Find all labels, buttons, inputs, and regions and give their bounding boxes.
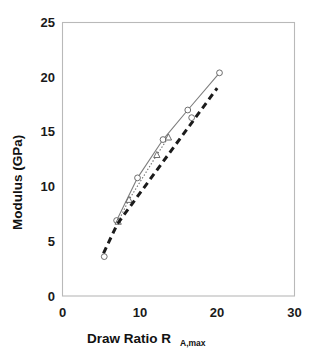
data-point-marker bbox=[135, 175, 141, 181]
x-axis-title-subscript: A,max bbox=[180, 338, 206, 348]
data-point-marker bbox=[217, 70, 223, 76]
xtick-label-0: 0 bbox=[59, 305, 66, 320]
chart-figure: 25 20 15 10 5 0 0 10 20 30 Modulus (GPa)… bbox=[0, 0, 319, 359]
ytick-label-0: 0 bbox=[48, 289, 55, 304]
x-axis-title: Draw Ratio R bbox=[87, 331, 171, 346]
xtick-label-30: 30 bbox=[287, 305, 301, 320]
ytick-label-25: 25 bbox=[41, 15, 55, 30]
ytick-label-10: 10 bbox=[41, 179, 55, 194]
data-point-marker bbox=[185, 107, 191, 113]
xtick-label-20: 20 bbox=[210, 305, 224, 320]
ytick-label-5: 5 bbox=[48, 234, 55, 249]
ytick-label-20: 20 bbox=[41, 70, 55, 85]
xtick-label-10: 10 bbox=[133, 305, 147, 320]
data-point-marker bbox=[189, 115, 195, 121]
chart-canvas: 25 20 15 10 5 0 0 10 20 30 Modulus (GPa)… bbox=[0, 0, 319, 359]
y-axis-title: Modulus (GPa) bbox=[10, 135, 25, 230]
data-point-marker bbox=[101, 254, 107, 260]
ytick-label-15: 15 bbox=[41, 124, 55, 139]
